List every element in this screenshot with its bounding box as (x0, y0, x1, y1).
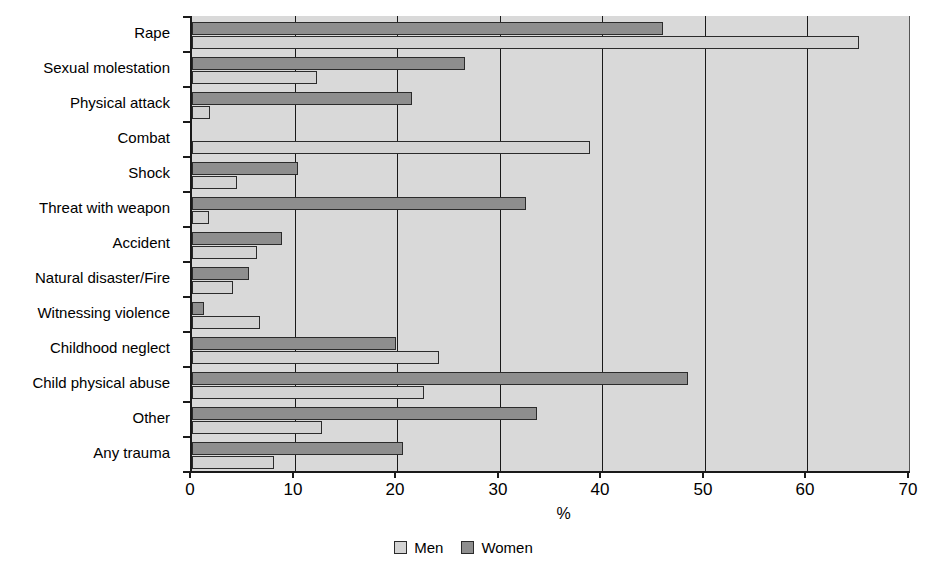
bar-men (192, 351, 439, 364)
x-tick-70 (907, 471, 909, 478)
y-axis-label-child-physical-abuse: Child physical abuse (32, 375, 170, 391)
legend-item-men: Men (394, 540, 443, 555)
bar-men (192, 456, 274, 469)
y-tick (183, 296, 190, 298)
bar-women (192, 92, 412, 105)
y-axis-label-any-trauma: Any trauma (93, 445, 170, 461)
chart-legend: Men Women (0, 540, 927, 555)
x-axis-title: % (0, 505, 927, 523)
y-axis-label-rape: Rape (134, 25, 170, 41)
bar-men (192, 211, 209, 224)
men-swatch-icon (394, 541, 407, 554)
plot-area (190, 16, 910, 473)
y-tick (183, 226, 190, 228)
bar-men (192, 71, 317, 84)
gridline-60 (807, 16, 808, 471)
gridline-50 (705, 16, 706, 471)
bar-men (192, 281, 233, 294)
x-tick-20 (394, 471, 396, 478)
y-tick (183, 436, 190, 438)
legend-label-men: Men (414, 540, 443, 555)
bar-men (192, 421, 322, 434)
y-tick (183, 86, 190, 88)
bar-men (192, 141, 590, 154)
bar-women (192, 57, 465, 70)
bar-women (192, 302, 204, 315)
gridline-20 (397, 16, 398, 471)
plot-inner (192, 16, 910, 471)
bar-men (192, 36, 859, 49)
y-tick (183, 121, 190, 123)
y-axis-label-physical-attack: Physical attack (70, 95, 170, 111)
y-axis-label-accident: Accident (112, 235, 170, 251)
gridline-40 (602, 16, 603, 471)
x-tick-30 (497, 471, 499, 478)
x-tick-50 (702, 471, 704, 478)
x-tick-label-0: 0 (185, 480, 194, 500)
y-axis-label-other: Other (132, 410, 170, 426)
y-axis-label-witnessing-violence: Witnessing violence (37, 305, 170, 321)
legend-label-women: Women (481, 540, 532, 555)
x-tick-label-20: 20 (386, 480, 405, 500)
x-tick-label-40: 40 (591, 480, 610, 500)
bar-women (192, 372, 688, 385)
y-tick (183, 401, 190, 403)
bar-men (192, 386, 424, 399)
bar-men (192, 176, 237, 189)
y-axis-label-threat-with-weapon: Threat with weapon (39, 200, 170, 216)
bar-women (192, 22, 663, 35)
bar-women (192, 442, 403, 455)
gridline-30 (500, 16, 501, 471)
y-tick (183, 366, 190, 368)
legend-item-women: Women (461, 540, 532, 555)
bar-women (192, 407, 537, 420)
x-axis-title-text: % (556, 505, 570, 522)
x-tick-label-10: 10 (284, 480, 303, 500)
y-axis-label-combat: Combat (117, 130, 170, 146)
bar-women (192, 232, 282, 245)
bar-women (192, 162, 298, 175)
y-axis-label-natural-disaster-fire: Natural disaster/Fire (35, 270, 170, 286)
y-tick (183, 16, 190, 18)
y-tick (183, 156, 190, 158)
y-axis-label-childhood-neglect: Childhood neglect (50, 340, 170, 356)
y-axis-labels: RapeSexual molestationPhysical attackCom… (0, 16, 183, 471)
gridline-70 (909, 16, 910, 471)
x-tick-0 (189, 471, 191, 478)
x-tick-label-50: 50 (694, 480, 713, 500)
x-tick-label-70: 70 (899, 480, 918, 500)
y-tick (183, 191, 190, 193)
women-swatch-icon (461, 541, 474, 554)
x-tick-40 (599, 471, 601, 478)
bar-women (192, 337, 396, 350)
bar-women (192, 267, 249, 280)
y-axis-label-sexual-molestation: Sexual molestation (43, 60, 170, 76)
bar-men (192, 106, 210, 119)
y-tick (183, 261, 190, 263)
bar-men (192, 316, 260, 329)
y-tick (183, 51, 190, 53)
gridline-10 (295, 16, 296, 471)
bar-women (192, 197, 526, 210)
x-tick-label-60: 60 (796, 480, 815, 500)
y-axis-label-shock: Shock (128, 165, 170, 181)
y-tick (183, 331, 190, 333)
bar-men (192, 246, 257, 259)
x-tick-10 (292, 471, 294, 478)
x-tick-label-30: 30 (489, 480, 508, 500)
bar-chart-figure: RapeSexual molestationPhysical attackCom… (0, 0, 927, 582)
x-tick-60 (804, 471, 806, 478)
